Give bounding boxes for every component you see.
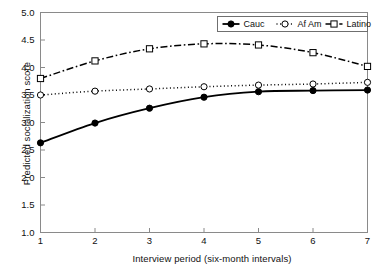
data-point-marker — [255, 89, 261, 95]
y-axis-tick-label: 2.0 — [21, 172, 34, 183]
x-axis-tick-label: 2 — [92, 235, 97, 246]
y-axis-tick-label: 4.5 — [21, 34, 34, 45]
legend-label: Latino — [347, 19, 372, 29]
data-point-marker — [92, 58, 98, 64]
data-point-marker — [364, 87, 370, 93]
x-axis-tick-label: 4 — [201, 235, 206, 246]
line-chart-svg: 1.01.52.02.53.03.54.04.55.01234567 CaucA… — [0, 0, 392, 274]
data-point-marker — [201, 84, 207, 90]
axis-layer: 1.01.52.02.53.03.54.04.55.01234567 — [21, 7, 370, 246]
data-point-marker — [364, 79, 370, 85]
data-point-marker — [37, 140, 43, 146]
legend-label: Cauc — [244, 19, 266, 29]
data-point-marker — [310, 88, 316, 94]
legend-box — [218, 17, 368, 32]
x-axis-tick-label: 5 — [256, 235, 261, 246]
x-axis-tick-label: 6 — [310, 235, 315, 246]
plot-area: 1.01.52.02.53.03.54.04.55.01234567 CaucA… — [0, 0, 392, 274]
data-point-marker — [255, 42, 261, 48]
data-point-marker — [364, 63, 370, 69]
y-axis-tick-label: 1.0 — [21, 227, 34, 238]
data-point-marker — [310, 81, 316, 87]
y-axis-tick-label: 3.5 — [21, 89, 34, 100]
data-point-marker — [255, 82, 261, 88]
series-cauc — [37, 87, 370, 146]
legend-label: Af Am — [298, 19, 322, 29]
legend-marker-swatch — [331, 21, 337, 27]
data-point-marker — [37, 75, 43, 81]
legend-marker-swatch — [282, 21, 288, 27]
data-point-marker — [201, 94, 207, 100]
series-latino — [37, 41, 370, 82]
data-point-marker — [92, 120, 98, 126]
data-point-marker — [92, 88, 98, 94]
x-axis-tick-label: 1 — [38, 235, 43, 246]
legend-layer: CaucAf AmLatino — [218, 17, 372, 32]
y-axis-tick-label: 3.0 — [21, 117, 34, 128]
data-point-marker — [146, 46, 152, 52]
series-line — [41, 44, 368, 79]
data-point-marker — [37, 92, 43, 98]
chart-figure: Predicted socialization score Interview … — [0, 0, 392, 274]
series-layer — [37, 41, 370, 146]
legend-marker-swatch — [228, 21, 234, 27]
data-point-marker — [146, 86, 152, 92]
y-axis-tick-label: 2.5 — [21, 144, 34, 155]
data-point-marker — [146, 105, 152, 111]
y-axis-tick-label: 5.0 — [21, 7, 34, 18]
data-point-marker — [310, 50, 316, 56]
y-axis-tick-label: 1.5 — [21, 199, 34, 210]
x-axis-tick-label: 3 — [147, 235, 152, 246]
y-axis-tick-label: 4.0 — [21, 62, 34, 73]
data-point-marker — [201, 41, 207, 47]
x-axis-tick-label: 7 — [365, 235, 370, 246]
